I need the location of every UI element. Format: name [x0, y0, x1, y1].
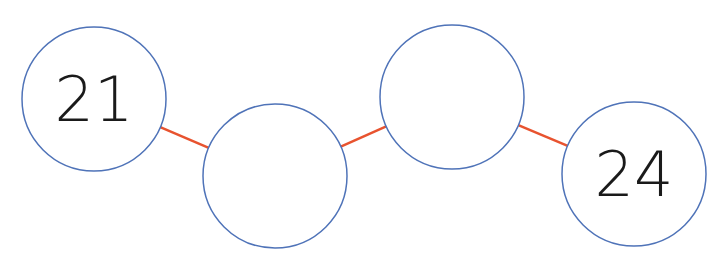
- number-circle: 24: [562, 102, 706, 246]
- connector-line: [518, 125, 567, 146]
- number-chain-diagram: 2124: [0, 0, 728, 264]
- circle-outline: [203, 104, 347, 248]
- empty-number-circle[interactable]: [380, 25, 524, 169]
- number-circle: 21: [22, 27, 166, 171]
- connector-line: [160, 127, 208, 148]
- circle-number-label: 24: [595, 138, 674, 211]
- empty-number-circle[interactable]: [203, 104, 347, 248]
- circle-outline: [380, 25, 524, 169]
- circle-number-label: 21: [55, 63, 134, 136]
- connector-line: [341, 126, 387, 146]
